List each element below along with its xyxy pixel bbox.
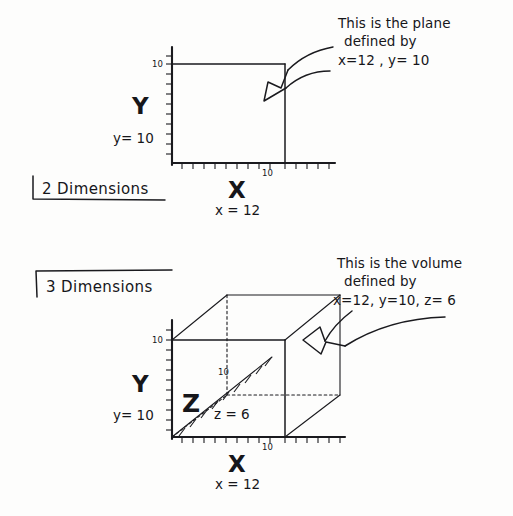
three-dimensions-heading-label: 3 Dimensions xyxy=(46,278,153,296)
2d-x-axis-value: x = 12 xyxy=(215,202,260,218)
volume-annotation-arrow-icon xyxy=(303,311,445,354)
3d-y-axis-name: Y xyxy=(131,371,149,397)
2d-y-tick-label: 10 xyxy=(152,59,163,69)
three-dimensions-heading: 3 Dimensions xyxy=(36,270,172,297)
2d-y-axis-name: Y xyxy=(131,93,149,119)
2d-x-axis-name: X xyxy=(228,177,246,203)
3d-y-axis-value: y= 10 xyxy=(113,407,154,423)
plane-annotation-line1: This is the plane xyxy=(337,15,451,31)
volume-annotation-line3: x=12, y=10, z= 6 xyxy=(333,292,456,308)
3d-z-axis-value: z = 6 xyxy=(214,406,250,422)
three-dimensions-section: This is the volume defined by x=12, y=10… xyxy=(36,255,462,492)
diagram-page: This is the plane defined by x=12 , y= 1… xyxy=(0,0,513,516)
2d-x-tick-label: 10 xyxy=(262,168,273,178)
3d-y-tick-label: 10 xyxy=(152,335,163,345)
two-dimensions-heading: 2 Dimensions xyxy=(33,176,165,200)
volume-annotation-line1: This is the volume xyxy=(336,255,462,271)
3d-z-tick-label: 10 xyxy=(218,367,229,377)
diagram-canvas: This is the plane defined by x=12 , y= 1… xyxy=(0,0,513,516)
two-dimensions-section: This is the plane defined by x=12 , y= 1… xyxy=(33,15,451,218)
volume-annotation: This is the volume defined by x=12, y=10… xyxy=(333,255,462,308)
plane-annotation-arrow-icon xyxy=(264,47,333,101)
3d-z-axis-name: Z xyxy=(182,389,200,418)
3d-x-axis-value: x = 12 xyxy=(215,476,260,492)
two-dimensions-heading-label: 2 Dimensions xyxy=(42,180,149,198)
volume-annotation-line2: defined by xyxy=(344,273,417,289)
3d-x-axis-name: X xyxy=(228,451,246,477)
plane-annotation-line2: defined by xyxy=(344,33,417,49)
plane-annotation: This is the plane defined by x=12 , y= 1… xyxy=(337,15,451,68)
plane-annotation-line3: x=12 , y= 10 xyxy=(338,52,429,68)
2d-y-axis-value: y= 10 xyxy=(113,130,154,146)
3d-x-tick-label: 10 xyxy=(262,442,273,452)
